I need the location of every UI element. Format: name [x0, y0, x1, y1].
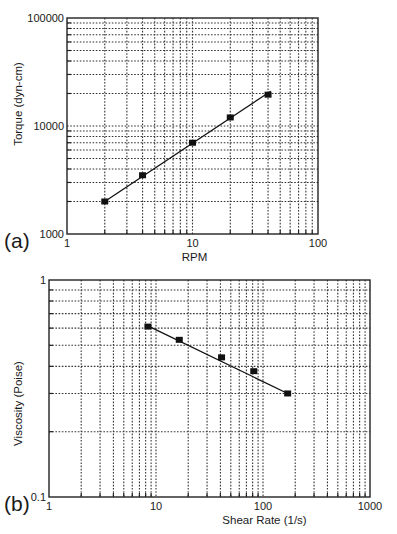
x-tick-label: 100 — [309, 237, 327, 249]
y-tick-label: 100000 — [27, 12, 64, 24]
data-point-marker — [139, 172, 146, 178]
panel-label: (b) — [4, 492, 30, 515]
plot-frame — [49, 280, 370, 497]
x-tick-label: 10 — [150, 500, 162, 512]
data-point-marker — [218, 354, 225, 360]
x-tick-label: 1 — [46, 500, 52, 512]
data-point-marker — [189, 140, 196, 146]
x-tick-label: 100 — [254, 500, 272, 512]
x-tick-label: 1000 — [358, 500, 382, 512]
data-point-marker — [144, 324, 151, 330]
data-point-marker — [227, 114, 234, 120]
data-point-marker — [101, 198, 108, 204]
y-axis-label: Viscosity (Poise) — [12, 361, 24, 446]
y-axis-label: Torque (dyn-cm) — [12, 62, 24, 146]
viscosity-vs-shear-rate-chart: 11010010000.11Shear Rate (1/s)Viscosity … — [4, 274, 382, 526]
data-point-marker — [176, 337, 183, 343]
fit-line — [148, 326, 288, 394]
grid — [49, 280, 370, 497]
figure: 110100100010000100000RPMTorque (dyn-cm)(… — [0, 0, 397, 534]
data-point-marker — [250, 368, 257, 374]
data-point-marker — [284, 390, 291, 396]
torque-vs-rpm-chart: 110100100010000100000RPMTorque (dyn-cm)(… — [4, 12, 327, 263]
fit-line — [105, 91, 271, 201]
panel-label: (a) — [4, 229, 30, 252]
x-tick-label: 1 — [64, 237, 70, 249]
y-tick-label: 1 — [40, 274, 46, 286]
y-tick-label: 1000 — [40, 228, 64, 240]
y-tick-label: 10000 — [33, 120, 64, 132]
x-axis-label: Shear Rate (1/s) — [222, 514, 307, 526]
y-tick-label: 0.1 — [31, 491, 46, 503]
x-axis-label: RPM — [182, 251, 208, 263]
data-point-marker — [265, 92, 272, 98]
x-tick-label: 10 — [186, 237, 198, 249]
